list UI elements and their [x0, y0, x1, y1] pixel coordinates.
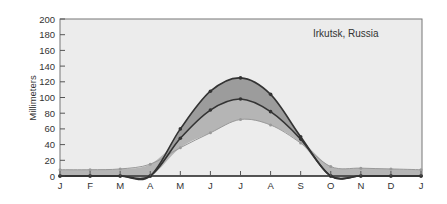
data-point: [420, 168, 423, 171]
data-point: [359, 167, 362, 170]
data-point: [239, 97, 243, 101]
x-tick-label: M: [116, 180, 124, 191]
x-tick-label: J: [208, 180, 213, 191]
x-tick-label: O: [327, 180, 334, 191]
x-tick-label: A: [147, 180, 154, 191]
precipitation-chart: 020406080100120140160180200 JFMAMJJASOND…: [0, 0, 447, 204]
data-point: [59, 168, 62, 171]
chart-title: Irkutsk, Russia: [313, 28, 379, 39]
y-tick-label: 20: [44, 155, 55, 166]
x-tick-label: D: [387, 180, 394, 191]
y-tick-label: 120: [39, 76, 55, 87]
y-tick-label: 140: [39, 61, 55, 72]
data-point: [89, 168, 92, 171]
data-point: [269, 123, 272, 126]
x-tick-label: N: [357, 180, 364, 191]
data-point: [389, 167, 392, 170]
data-point: [239, 118, 242, 121]
data-point: [269, 93, 273, 97]
data-point: [149, 163, 152, 166]
x-tick-label: A: [267, 180, 274, 191]
y-tick-label: 0: [50, 171, 55, 182]
data-point: [239, 76, 243, 80]
y-tick-label: 80: [44, 108, 55, 119]
data-point: [209, 131, 212, 134]
y-tick-label: 160: [39, 45, 55, 56]
y-tick-label: 100: [39, 92, 55, 103]
data-point: [119, 167, 122, 170]
x-tick-label: S: [297, 180, 303, 191]
x-tick-label: J: [58, 180, 63, 191]
data-point: [179, 127, 183, 131]
x-tick-label: J: [238, 180, 243, 191]
x-tick-label: F: [87, 180, 93, 191]
x-tick-label: M: [176, 180, 184, 191]
y-axis-label: Millimeters: [27, 75, 38, 121]
y-tick-label: 180: [39, 29, 55, 40]
data-point: [209, 108, 213, 112]
y-tick-label: 40: [44, 139, 55, 150]
data-point: [269, 110, 273, 114]
data-point: [329, 165, 332, 168]
data-point: [179, 137, 183, 141]
y-tick-label: 200: [39, 14, 55, 25]
data-point: [179, 146, 182, 149]
y-tick-label: 60: [44, 123, 55, 134]
x-tick-label: J: [419, 180, 424, 191]
data-point: [209, 89, 213, 93]
data-point: [299, 142, 302, 145]
data-point: [299, 137, 303, 141]
